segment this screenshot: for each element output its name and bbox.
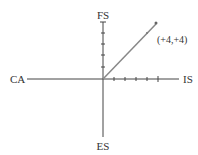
label-right: IS [183, 73, 193, 85]
label-bottom: ES [97, 140, 110, 152]
vector-label: (+4,+4) [157, 34, 187, 46]
vector-midpoint [146, 32, 148, 34]
label-left: CA [10, 73, 25, 85]
vector-endpoint [155, 22, 158, 25]
label-top: FS [97, 9, 109, 21]
quadrant-diagram: FS ES CA IS (+4,+4) [0, 0, 198, 155]
vector-arrow [103, 24, 156, 79]
